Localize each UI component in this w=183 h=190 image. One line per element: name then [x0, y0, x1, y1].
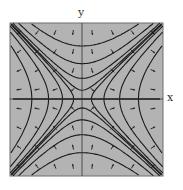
y-axis-label: y	[78, 6, 84, 19]
phase-portrait-plot	[0, 0, 183, 190]
plot-area	[10, 23, 163, 176]
x-axis-label: x	[167, 91, 173, 104]
